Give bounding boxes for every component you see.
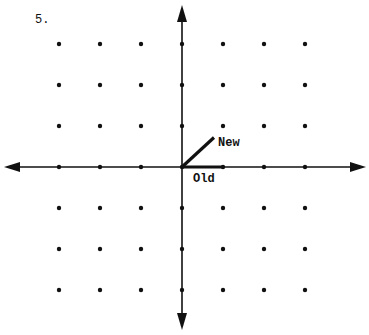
lattice-point — [57, 83, 61, 87]
y-axis-down-arrow-icon — [177, 313, 187, 330]
lattice-point — [262, 247, 266, 251]
lattice-point — [139, 288, 143, 292]
lattice-point — [98, 124, 102, 128]
lattice-point — [57, 288, 61, 292]
lattice-point — [221, 206, 225, 210]
new-vector-label: New — [218, 136, 240, 150]
lattice-point — [303, 206, 307, 210]
lattice-point — [303, 288, 307, 292]
lattice-point — [262, 42, 266, 46]
lattice-point — [139, 42, 143, 46]
lattice-point — [221, 247, 225, 251]
lattice-point — [57, 206, 61, 210]
coordinate-diagram: 5. New Old — [0, 0, 369, 335]
x-axis-right-arrow-icon — [350, 162, 366, 172]
lattice-point — [98, 206, 102, 210]
lattice-point — [98, 42, 102, 46]
lattice-point — [139, 124, 143, 128]
lattice-point — [262, 83, 266, 87]
old-vector-label: Old — [193, 172, 215, 186]
lattice-point — [221, 124, 225, 128]
lattice-point — [303, 42, 307, 46]
x-axis-left-arrow-icon — [4, 162, 20, 172]
lattice-point — [98, 288, 102, 292]
lattice-point — [221, 83, 225, 87]
lattice-point — [262, 124, 266, 128]
lattice-point — [57, 247, 61, 251]
y-axis-up-arrow-icon — [177, 5, 187, 22]
lattice-point — [98, 247, 102, 251]
problem-number: 5. — [35, 13, 49, 27]
lattice-point — [139, 247, 143, 251]
lattice-point — [57, 124, 61, 128]
lattice-point — [303, 247, 307, 251]
lattice-point — [221, 288, 225, 292]
lattice-point — [139, 206, 143, 210]
lattice-point — [139, 83, 143, 87]
lattice-point — [303, 124, 307, 128]
lattice-point — [303, 83, 307, 87]
lattice-point — [262, 288, 266, 292]
lattice-point — [98, 83, 102, 87]
new-vector — [182, 137, 214, 167]
lattice-point — [57, 42, 61, 46]
lattice-point — [262, 206, 266, 210]
lattice-point — [221, 42, 225, 46]
